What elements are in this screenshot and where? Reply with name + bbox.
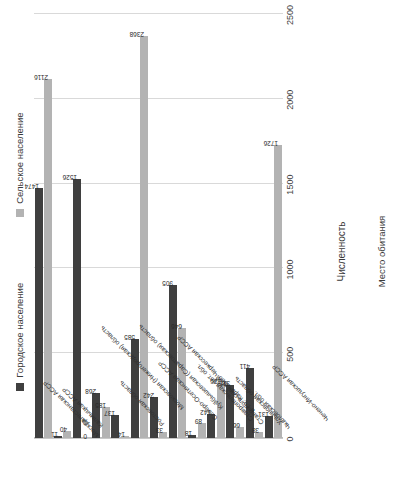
value-tick-1500: 1500 (285, 175, 295, 195)
bar-value-label: 268 (85, 387, 96, 394)
plot-area: 1474211611401526026818513714585236824233… (34, 14, 283, 439)
bar-value-label: 131 (258, 410, 269, 417)
bar-value-label: 89 (194, 417, 201, 424)
bar-value-label: 137 (105, 409, 116, 416)
bar-group: 14742116 (34, 14, 53, 438)
legend-item-rural: Сельское население (14, 112, 25, 216)
bar (198, 423, 206, 438)
bar-chart-figure: Городское население Сельское население 1… (0, 0, 401, 503)
bar (35, 188, 43, 438)
bar (217, 383, 225, 438)
chart-legend: Городское население Сельское население (14, 0, 25, 503)
bar-value-label: 40 (60, 426, 67, 433)
value-axis-title: Численность (336, 0, 347, 503)
bar (226, 385, 234, 438)
bar-value-label: 11 (51, 431, 58, 438)
bar-value-label: 38 (252, 426, 259, 433)
bar-value-label: 2116 (34, 74, 48, 81)
bar-value-label: 1474 (24, 183, 38, 190)
value-tick-1000: 1000 (285, 259, 295, 279)
bar-group: 5852368 (130, 14, 149, 438)
bar-value-label: 1726 (264, 140, 278, 147)
value-axis-ticks: 05001000150020002500 (285, 14, 305, 439)
bar-group: 1889 (187, 14, 206, 438)
bar-group: 1140 (53, 14, 72, 438)
bar-group: 268185 (91, 14, 110, 438)
bar-value-label: 905 (162, 279, 173, 286)
bar (207, 414, 215, 438)
bar-value-label: 0 (83, 433, 87, 440)
bar (140, 36, 148, 438)
bar-group: 24233 (149, 14, 168, 438)
category-axis-title: Место обитания (376, 0, 387, 503)
legend-swatch-rural (16, 209, 24, 217)
legend-item-urban: Городское население (14, 283, 25, 391)
bar-value-label: 185 (95, 401, 106, 408)
bar (44, 79, 52, 438)
value-tick-2000: 2000 (285, 90, 295, 110)
bar-group: 41138 (245, 14, 264, 438)
bar-value-label: 585 (124, 333, 135, 340)
bar-value-label: 66 (233, 421, 240, 428)
bar (178, 328, 186, 438)
legend-label-rural: Сельское население (14, 112, 25, 203)
bar (73, 179, 81, 438)
bar-group: 31566 (226, 14, 245, 438)
bar-group: 15260 (72, 14, 91, 438)
bar-group: 905646 (168, 14, 187, 438)
bar-value-label: 142 (200, 408, 211, 415)
bar-value-label: 1526 (63, 174, 77, 181)
bar-value-label: 315 (219, 379, 230, 386)
bar-value-label: 2368 (130, 31, 144, 38)
bar-value-label: 646 (172, 323, 183, 330)
chart-rotation-wrapper: Городское население Сельское население 1… (0, 0, 401, 503)
bar-value-label: 411 (239, 363, 249, 370)
bar (92, 393, 100, 438)
legend-swatch-urban (16, 383, 24, 391)
bar-group: 13714 (111, 14, 130, 438)
bar-group: 1311726 (264, 14, 283, 438)
value-tick-0: 0 (285, 436, 295, 441)
bar-value-label: 33 (156, 427, 163, 434)
bar (274, 145, 282, 438)
bar-value-label: 18 (185, 429, 192, 436)
bar (265, 416, 273, 438)
bar-value-label: 242 (143, 391, 154, 398)
bar (131, 339, 139, 438)
bar (169, 285, 177, 438)
bar-value-label: 14 (118, 430, 125, 437)
value-tick-500: 500 (285, 347, 295, 362)
bar-group: 142326 (206, 14, 225, 438)
legend-label-urban: Городское население (14, 283, 25, 378)
value-tick-2500: 2500 (285, 5, 295, 25)
